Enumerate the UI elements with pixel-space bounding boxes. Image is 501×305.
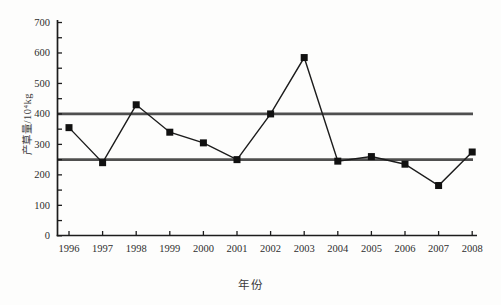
data-point-2001 [234,156,241,163]
chart-canvas: 0100200300400500600700199619971998199920… [0,0,501,305]
data-point-1999 [166,129,173,136]
x-tick-label: 1996 [59,243,80,254]
data-point-1996 [66,124,73,131]
y-tick-label: 200 [34,169,50,180]
y-tick-label: 100 [34,200,50,211]
x-tick-label: 1999 [159,243,180,254]
y-tick-label: 700 [34,17,50,28]
x-tick-label: 2007 [428,243,449,254]
data-point-1998 [133,101,140,108]
data-point-2008 [469,149,476,156]
data-point-2000 [200,139,207,146]
y-tick-label: 0 [45,230,50,241]
y-tick-label: 400 [34,108,50,119]
data-point-2003 [301,54,308,61]
x-tick-label: 2008 [462,243,483,254]
data-line [69,58,472,186]
x-tick-label: 2006 [395,243,416,254]
x-tick-label: 2001 [227,243,248,254]
x-tick-label: 1997 [92,243,113,254]
data-point-2006 [402,161,409,168]
data-point-2005 [368,153,375,160]
y-axis-title: 产草量/10⁴kg [19,93,34,155]
x-tick-label: 1998 [126,243,147,254]
x-axis-title: 年份 [238,276,264,292]
data-point-2002 [267,110,274,117]
x-tick-label: 2004 [327,243,349,254]
x-tick-label: 2003 [294,243,315,254]
x-tick-label: 2000 [193,243,214,254]
data-point-1997 [99,159,106,166]
y-tick-label: 300 [34,139,50,150]
x-tick-label: 2002 [260,243,281,254]
y-tick-label: 500 [34,78,50,89]
x-tick-label: 2005 [361,243,382,254]
data-point-2007 [435,182,442,189]
y-tick-label: 600 [34,47,50,58]
data-point-2004 [334,158,341,165]
line-chart-figure: 0100200300400500600700199619971998199920… [0,0,501,305]
